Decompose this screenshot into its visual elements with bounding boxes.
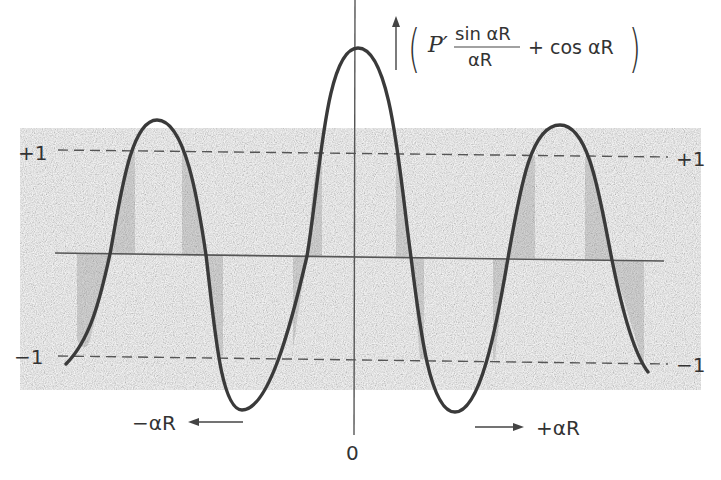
function-prefix: P′	[427, 32, 448, 57]
minus-one-label-left: −1	[14, 345, 43, 369]
function-label: ( P′ sin αR αR + cos αR )	[408, 17, 641, 78]
plus-one-label-left: +1	[18, 141, 47, 165]
function-numerator: sin αR	[455, 23, 511, 44]
svg-text:(: (	[408, 17, 420, 78]
function-denominator: αR	[468, 49, 492, 70]
up-arrow-icon	[392, 16, 400, 70]
function-suffix: + cos αR	[528, 36, 614, 58]
zero-line	[55, 253, 664, 261]
kronig-penney-plot: ( P′ sin αR αR + cos αR ) +1 +1 −1 −1 −α…	[0, 0, 721, 480]
function-curve	[66, 48, 648, 412]
minus-one-label-right: −1	[676, 353, 705, 377]
origin-label: 0	[346, 441, 359, 465]
plus-one-dashed-line	[58, 150, 668, 157]
right-arrow-icon	[475, 423, 524, 431]
negative-alpha-r-label: −αR	[132, 411, 176, 435]
left-arrow-icon	[188, 418, 243, 426]
vertical-axis	[354, 0, 355, 435]
minus-one-dashed-line	[58, 356, 668, 364]
plus-one-label-right: +1	[676, 147, 705, 171]
svg-text:): )	[629, 17, 641, 78]
positive-alpha-r-label: +αR	[536, 416, 580, 440]
